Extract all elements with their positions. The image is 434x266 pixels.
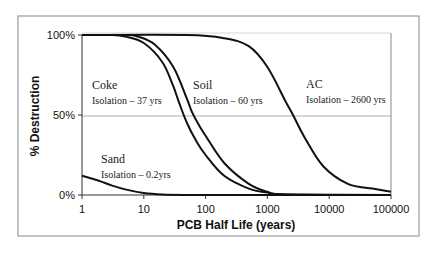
y-ticks: 0%50%100%	[47, 29, 82, 201]
y-tick-label: 50%	[53, 109, 75, 121]
svg-text:Coke: Coke	[92, 78, 117, 92]
chart-frame	[17, 15, 420, 236]
x-tick-label: 1	[79, 203, 85, 215]
x-axis-title: PCB Half Life (years)	[177, 218, 296, 232]
annotation-ac: AC Isolation – 2600 yrs	[306, 77, 386, 105]
annotation-soil: Soil Isolation – 60 yrs	[193, 78, 263, 106]
svg-text:Isolation – 37 yrs: Isolation – 37 yrs	[92, 95, 162, 106]
svg-text:Isolation – 0.2yrs: Isolation – 0.2yrs	[101, 169, 171, 180]
svg-text:Isolation – 60 yrs: Isolation – 60 yrs	[193, 95, 263, 106]
chart: 0%50%100% 110100100010000100000 PCB Half…	[0, 0, 434, 266]
x-tick-label: 1000	[255, 203, 279, 215]
x-tick-label: 100000	[373, 203, 410, 215]
svg-text:Soil: Soil	[193, 78, 213, 92]
x-ticks: 110100100010000100000	[79, 195, 409, 215]
y-tick-label: 100%	[47, 29, 75, 41]
svg-text:Sand: Sand	[101, 152, 125, 166]
annotation-sand: Sand Isolation – 0.2yrs	[101, 152, 171, 180]
svg-text:Isolation – 2600 yrs: Isolation – 2600 yrs	[306, 94, 386, 105]
x-tick-label: 10000	[314, 203, 345, 215]
svg-text:AC: AC	[306, 77, 323, 91]
y-tick-label: 0%	[59, 189, 75, 201]
annotation-coke: Coke Isolation – 37 yrs	[92, 78, 162, 106]
x-tick-label: 100	[196, 203, 214, 215]
y-axis-title: % Destruction	[28, 76, 42, 157]
x-tick-label: 10	[138, 203, 150, 215]
